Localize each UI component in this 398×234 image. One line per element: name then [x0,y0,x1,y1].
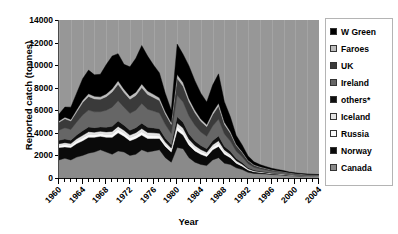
legend-item[interactable]: Norway [330,142,389,159]
legend-item-label: Norway [341,146,372,156]
legend-item-label: Canada [341,163,372,173]
y-tick-label: 4000 [34,129,53,137]
legend-item-label: Iceland [341,112,370,122]
stacked-area-series-group [59,20,319,178]
y-tick-label: 2000 [34,151,53,159]
legend-swatch-icon [330,62,337,69]
legend-item[interactable]: others* [330,91,389,108]
legend-swatch-icon [330,113,337,120]
x-axis-title: Year [58,216,319,227]
legend-item[interactable]: Iceland [330,108,389,125]
legend-swatch-icon [330,28,337,35]
legend-item[interactable]: UK [330,57,389,74]
legend-item-label: Ireland [341,78,369,88]
stacked-area-chart: Reported catch (tonnes) 0200040006000800… [0,0,398,234]
x-axis-tick-labels: 1960196419681972197619801984198819921996… [0,182,398,216]
chart-legend: W GreenFaroesUKIrelandothers*IcelandRuss… [325,18,393,186]
legend-item[interactable]: Russia [330,125,389,142]
legend-item-label: Faroes [341,44,369,54]
legend-swatch-icon [330,130,337,137]
legend-item[interactable]: Ireland [330,74,389,91]
legend-swatch-icon [330,45,337,52]
y-tick-label: 6000 [34,106,53,114]
legend-item[interactable]: Canada [330,159,389,176]
legend-swatch-icon [330,79,337,86]
legend-swatch-icon [330,164,337,171]
y-tick-label: 10000 [29,61,53,69]
legend-swatch-icon [330,96,337,103]
legend-swatch-icon [330,147,337,154]
legend-item[interactable]: Faroes [330,40,389,57]
y-tick-label: 14000 [29,16,53,24]
legend-item-label: Russia [341,129,369,139]
legend-item-label: W Green [341,27,376,37]
legend-item[interactable]: W Green [330,23,389,40]
plot-area [58,20,319,179]
legend-item-label: UK [341,61,353,71]
y-axis-tick-labels: 02000400060008000100001200014000 [8,14,55,184]
y-tick-label: 12000 [29,39,53,47]
legend-item-label: others* [341,95,370,105]
y-tick-label: 0 [48,174,53,182]
y-tick-label: 8000 [34,84,53,92]
